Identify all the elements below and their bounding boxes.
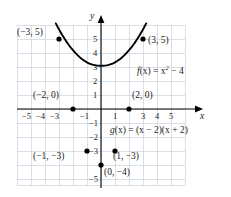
y-tick-1: 1 [93, 91, 97, 100]
x-tick-5: 5 [169, 112, 173, 121]
point-2-0 [126, 106, 131, 111]
point-neg3-5 [56, 36, 61, 41]
equation-g-var: (x) [115, 125, 126, 135]
y-tick-4: 4 [93, 49, 97, 58]
y-tick-neg2: −2 [89, 133, 98, 142]
point-label-1-neg3: (1, −3) [113, 152, 139, 162]
x-tick-neg5: −5 [22, 112, 31, 121]
x-tick-1: 1 [113, 112, 117, 121]
equation-f-var: (x) [140, 66, 151, 76]
point-label-2-0: (2, 0) [132, 91, 153, 101]
x-tick-4: 4 [155, 112, 159, 121]
x-tick-neg4: −4 [36, 112, 45, 121]
equation-f-body: = x [151, 66, 166, 76]
point-label-0-neg4: (0, −4) [104, 168, 130, 178]
x-tick-neg3: −3 [50, 112, 59, 121]
equation-g: g(x) = (x − 2)(x + 2) [110, 126, 188, 136]
equation-f: f(x) = x2 − 4 [137, 65, 184, 77]
y-axis-arrow [98, 15, 105, 23]
x-tick-neg1: −1 [80, 112, 89, 121]
equation-g-body: = (x − 2)(x + 2) [126, 125, 188, 135]
point-label-neg3-5: (−3, 5) [17, 28, 43, 38]
y-tick-3: 3 [93, 63, 97, 72]
x-tick-3: 3 [141, 112, 145, 121]
point-3-5 [140, 36, 145, 41]
y-axis-label: y [90, 12, 94, 22]
point-label-neg2-0: (−2, 0) [33, 91, 59, 101]
y-tick-neg3: −3 [89, 147, 98, 156]
x-axis-label: x [200, 112, 204, 122]
y-tick-neg5: −5 [89, 175, 98, 184]
point-label-neg1-neg3: (−1, −3) [33, 152, 64, 162]
point-label-3-5: (3, 5) [148, 36, 169, 46]
y-tick-5: 5 [93, 35, 97, 44]
y-tick-neg1: −1 [89, 119, 98, 128]
y-tick-2: 2 [93, 77, 97, 86]
equation-f-tail: − 4 [169, 66, 184, 76]
point-neg2-0 [70, 106, 75, 111]
point-0-neg4 [98, 162, 103, 167]
parabola-graph-figure: (−3, 5) (3, 5) (−2, 0) (2, 0) (−1, −3) (… [0, 0, 231, 197]
